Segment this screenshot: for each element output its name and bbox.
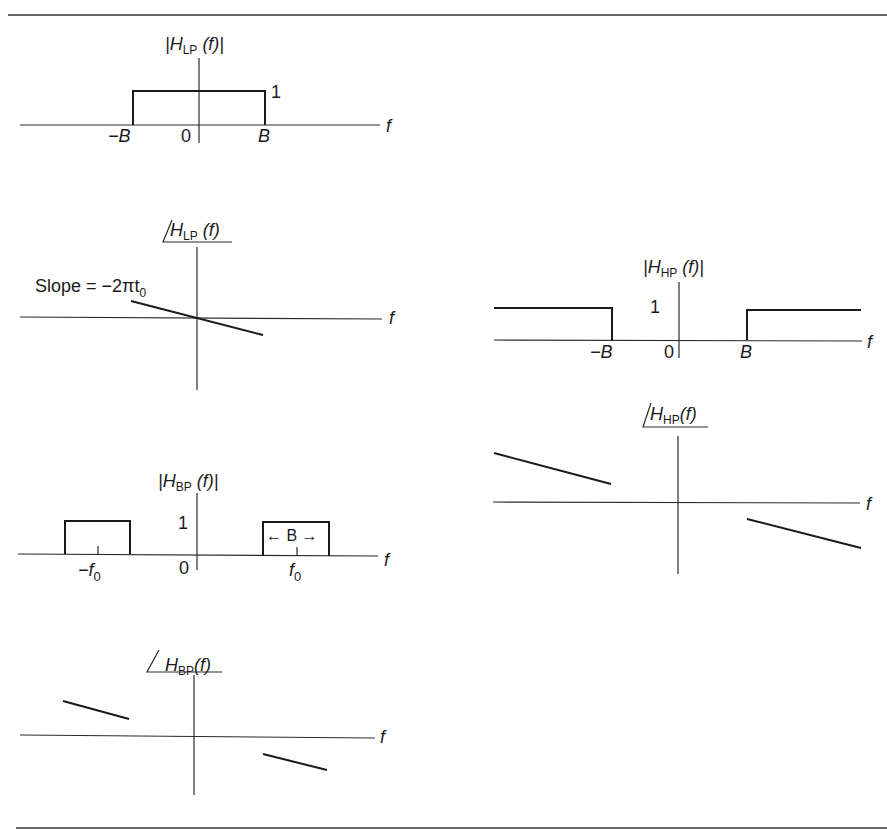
bp-mag-neg-f0-label: −f0 [78,560,101,584]
hp-mag-f-label: f [867,332,874,352]
hp-mag-x-axis [494,340,862,341]
lp-phase-f-label: f [389,308,396,328]
hp-mag-pos-b-label: B [740,342,752,362]
hp-mag-zero-label: 0 [664,342,674,362]
panel-hp-phase: HHP(f) f [493,403,873,574]
bp-mag-title: |HBP (f)| [158,471,218,494]
panel-bp-phase: HBP(f) f [20,650,387,795]
panel-lp-phase: HLP (f) Slope = −2πt0 f [20,220,396,390]
hp-phase-title: HHP(f) [650,404,697,427]
bp-phase-x-axis [20,735,375,738]
hp-phase-f-label: f [866,494,873,514]
filter-response-figure: |HLP (f)| 1 −B 0 B f HLP (f) Slope = −2π… [0,0,887,830]
bp-mag-zero-label: 0 [179,558,189,578]
hp-phase-x-axis [493,502,860,503]
hp-mag-one-label: 1 [650,297,660,317]
hp-mag-curve-right [747,310,861,340]
hp-mag-neg-b-label: −B [590,342,613,362]
bp-mag-pos-f0-label: f0 [289,560,301,584]
hp-phase-curve-left [494,453,611,484]
lp-mag-pos-b-label: B [258,126,270,146]
bp-mag-one-label: 1 [178,513,188,533]
bp-phase-curve-right [263,754,327,770]
bp-mag-x-axis [18,554,378,556]
panel-hp-magnitude: |HHP (f)| 1 −B 0 B f [494,257,874,362]
panel-lp-magnitude: |HLP (f)| 1 −B 0 B f [20,34,393,146]
lp-mag-one-label: 1 [271,82,281,102]
hp-mag-title: |HHP (f)| [643,257,704,280]
bp-phase-curve-left [63,701,129,719]
lp-mag-f-label: f [386,116,393,136]
hp-phase-curve-right [747,519,861,548]
hp-mag-curve-left [494,308,612,340]
bp-phase-f-label: f [380,727,387,747]
lp-mag-title: |HLP (f)| [165,34,224,57]
panel-bp-magnitude: |HBP (f)| 1 ← B → −f0 0 f0 f [18,471,391,584]
bp-mag-f-label: f [384,550,391,570]
bp-mag-bandwidth-label: ← B → [266,527,318,544]
lp-mag-zero-label: 0 [181,126,191,146]
lp-phase-slope-label: Slope = −2πt0 [35,276,147,300]
lp-mag-neg-b-label: −B [108,126,131,146]
lp-phase-title: HLP (f) [170,220,220,243]
bp-phase-title: HBP(f) [165,655,211,678]
